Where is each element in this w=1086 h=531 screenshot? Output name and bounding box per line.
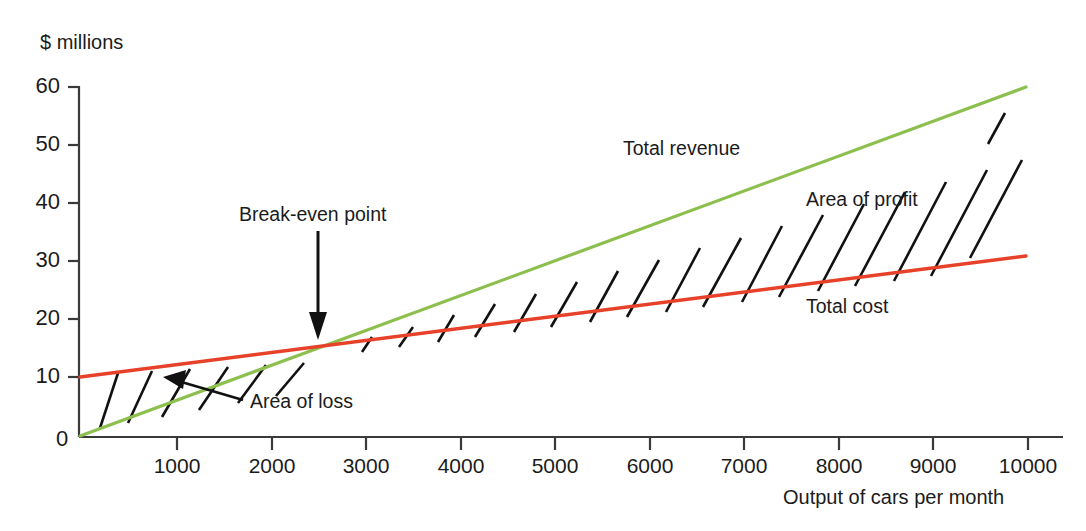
annotation-break-even-point: Break-even point: [239, 205, 386, 225]
break-even-chart: $ millions Output of cars per month 0 60…: [0, 0, 1086, 531]
x-tick-label-10000: 10000: [973, 455, 1083, 476]
x-tick-label-5000: 5000: [500, 455, 610, 476]
x-tick-label-1000: 1000: [122, 455, 232, 476]
y-tick-label-50: 50: [20, 133, 60, 155]
y-tick-label-40: 40: [20, 191, 60, 213]
y-tick-label-30: 30: [20, 249, 60, 271]
annotation-total-cost: Total cost: [806, 297, 888, 317]
x-tick-label-9000: 9000: [878, 455, 988, 476]
x-tick-label-3000: 3000: [311, 455, 421, 476]
x-axis-title: Output of cars per month: [783, 487, 1004, 507]
y-tick-label-10: 10: [20, 365, 60, 387]
total-revenue-line: [80, 87, 1026, 436]
annotation-area-of-loss: Area of loss: [250, 392, 353, 412]
annotation-area-of-profit: Area of profit: [806, 190, 918, 210]
y-axis-ticks: [68, 87, 79, 377]
chart-plot-area: [0, 0, 1086, 531]
y-tick-label-20: 20: [20, 307, 60, 329]
annotation-total-revenue: Total revenue: [623, 139, 740, 159]
axis-lines: [79, 86, 1063, 437]
axis-origin-label: 0: [56, 428, 68, 450]
break-even-arrow: [309, 231, 327, 340]
y-tick-label-60: 60: [20, 75, 60, 97]
x-tick-label-7000: 7000: [689, 455, 799, 476]
x-axis-ticks: [177, 437, 1028, 450]
y-axis-title: $ millions: [40, 32, 123, 52]
